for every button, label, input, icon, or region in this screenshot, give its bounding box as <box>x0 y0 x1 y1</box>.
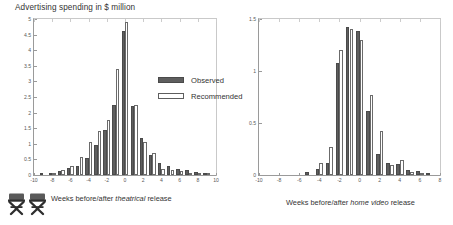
bar-observed-theatrical <box>176 169 179 175</box>
y-axis-label-home-video: 1.5 <box>249 16 256 22</box>
bar-observed-theatrical <box>194 172 197 175</box>
bar-observed-home-video <box>336 63 340 175</box>
bar-recommended-home-video <box>350 29 354 175</box>
x-axis-tick-top-theatrical <box>52 19 53 22</box>
x-axis-tick-top-home-video <box>259 19 260 22</box>
directors-chair-icon-group <box>7 192 51 220</box>
bar-recommended-theatrical <box>61 170 64 175</box>
x-axis-tick-top-home-video <box>279 19 280 22</box>
legend-label-observed: Observed <box>191 76 224 85</box>
bar-observed-home-video <box>386 163 390 175</box>
y-axis-tick-theatrical <box>34 159 37 160</box>
figure-title: Advertising spending in $ million <box>15 3 135 12</box>
bar-recommended-theatrical <box>134 105 137 175</box>
y-axis-label-theatrical: 0.5 <box>24 156 31 162</box>
x-axis-label-theatrical: 4 <box>160 177 163 183</box>
caption-left-emphasis: theatrical <box>115 194 145 203</box>
bar-observed-theatrical <box>49 173 52 175</box>
legend-item-recommended: Recommended <box>158 88 250 104</box>
y-axis-label-home-video: 0.5 <box>249 120 256 126</box>
bar-observed-theatrical <box>149 155 152 175</box>
x-axis-tick-top-home-video <box>360 19 361 22</box>
bar-recommended-home-video <box>400 160 404 175</box>
caption-right-emphasis: home video <box>350 198 388 207</box>
y-axis-tick-theatrical <box>34 66 37 67</box>
legend-item-observed: Observed <box>158 72 250 88</box>
bar-observed-theatrical <box>94 145 97 175</box>
x-axis-label-theatrical: -2 <box>105 177 110 183</box>
y-axis-label-theatrical: 2 <box>28 110 31 116</box>
bar-observed-home-video <box>426 173 430 175</box>
x-axis-tick-top-theatrical <box>161 19 162 22</box>
bar-recommended-theatrical <box>207 173 210 175</box>
x-axis-tick-top-theatrical <box>180 19 181 22</box>
bar-observed-home-video <box>416 171 420 175</box>
x-axis-tick-theatrical <box>34 173 35 176</box>
bar-observed-theatrical <box>103 130 106 175</box>
bar-observed-theatrical <box>203 173 206 175</box>
bar-recommended-theatrical <box>80 157 83 175</box>
bar-observed-theatrical <box>76 166 79 175</box>
x-axis-tick-top-theatrical <box>125 19 126 22</box>
x-axis-tick-home-video <box>279 173 280 176</box>
y-axis-tick-home-video <box>259 123 262 124</box>
x-axis-tick-top-home-video <box>339 19 340 22</box>
x-axis-label-theatrical: -8 <box>50 177 55 183</box>
bar-observed-theatrical <box>158 163 161 175</box>
x-axis-label-theatrical: 6 <box>178 177 181 183</box>
x-axis-tick-top-theatrical <box>198 19 199 22</box>
x-axis-tick-top-home-video <box>420 19 421 22</box>
x-axis-label-home-video: 8 <box>439 177 442 183</box>
caption-right-post: release <box>389 198 415 207</box>
legend-swatch-recommended <box>158 93 184 99</box>
x-axis-label-theatrical: -4 <box>86 177 91 183</box>
bar-observed-home-video <box>406 170 410 175</box>
y-axis-label-theatrical: 3 <box>28 78 31 84</box>
x-axis-tick-top-home-video <box>319 19 320 22</box>
bar-recommended-home-video <box>360 40 364 175</box>
chart-legend: Observed Recommended <box>158 72 250 104</box>
y-axis-label-home-video: 1 <box>253 68 256 74</box>
caption-left-pre: Weeks before/after <box>51 194 115 203</box>
bar-recommended-theatrical <box>143 142 146 175</box>
x-axis-label-home-video: -10 <box>255 177 262 183</box>
y-axis-tick-theatrical <box>34 35 37 36</box>
bar-recommended-theatrical <box>125 22 128 175</box>
x-axis-caption-home-video: Weeks before/after home video release <box>286 198 415 207</box>
bar-observed-home-video <box>366 111 370 175</box>
bar-recommended-theatrical <box>171 170 174 175</box>
x-axis-label-theatrical: -6 <box>68 177 73 183</box>
bar-observed-theatrical <box>85 158 88 175</box>
y-axis-label-theatrical: 4 <box>28 47 31 53</box>
x-axis-label-home-video: -8 <box>277 177 282 183</box>
bar-observed-home-video <box>356 31 360 175</box>
x-axis-tick-top-theatrical <box>216 19 217 22</box>
bar-observed-theatrical <box>58 171 61 175</box>
x-axis-label-home-video: 0 <box>358 177 361 183</box>
bar-observed-theatrical <box>131 106 134 175</box>
x-axis-label-home-video: -2 <box>337 177 342 183</box>
bar-recommended-theatrical <box>198 173 201 175</box>
x-axis-tick-top-home-video <box>299 19 300 22</box>
caption-right-pre: Weeks before/after <box>286 198 350 207</box>
y-axis-tick-home-video <box>259 175 262 176</box>
bar-observed-home-video <box>346 27 350 175</box>
bar-recommended-theatrical <box>107 120 110 175</box>
x-axis-tick-top-home-video <box>440 19 441 22</box>
bar-recommended-home-video <box>339 50 343 175</box>
x-axis-tick-top-theatrical <box>107 19 108 22</box>
bar-observed-theatrical <box>122 31 125 175</box>
x-axis-tick-home-video <box>440 173 441 176</box>
x-axis-tick-top-theatrical <box>143 19 144 22</box>
bar-recommended-theatrical <box>52 173 55 175</box>
y-axis-label-theatrical: 5 <box>28 16 31 22</box>
y-axis-label-theatrical: 3.5 <box>24 63 31 69</box>
bar-recommended-theatrical <box>98 131 101 175</box>
y-axis-tick-theatrical <box>34 128 37 129</box>
directors-chair-icon <box>7 192 51 220</box>
bar-observed-theatrical <box>67 168 70 175</box>
legend-swatch-observed <box>158 77 184 83</box>
bar-recommended-home-video <box>319 163 323 175</box>
bar-recommended-theatrical <box>189 173 192 175</box>
x-axis-tick-home-video <box>299 173 300 176</box>
